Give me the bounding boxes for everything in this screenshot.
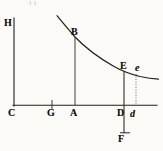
label-c: C xyxy=(8,108,15,118)
label-h: H xyxy=(4,18,12,28)
diagram-canvas xyxy=(0,0,163,151)
label-b: B xyxy=(71,27,78,37)
label-a: A xyxy=(70,108,77,118)
label-d-lower: d xyxy=(130,109,135,119)
label-e-upper: E xyxy=(120,61,127,71)
label-d-upper: D xyxy=(117,108,124,118)
label-f: F xyxy=(118,134,124,144)
label-g: G xyxy=(47,108,55,118)
figure-plate: ΙΙ H B E e C G A D d F xyxy=(0,0,163,151)
label-e-lower: e xyxy=(135,63,140,73)
